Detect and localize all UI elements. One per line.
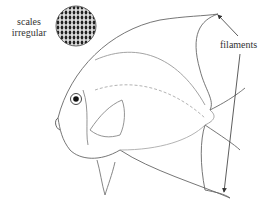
scales-label-line1: scales <box>6 16 52 27</box>
scales-inset <box>56 6 96 46</box>
filaments-label: filaments <box>220 39 257 50</box>
scales-label-line2: irregular <box>6 27 52 38</box>
scales-label: scales irregular <box>6 16 52 38</box>
eye <box>71 94 82 105</box>
